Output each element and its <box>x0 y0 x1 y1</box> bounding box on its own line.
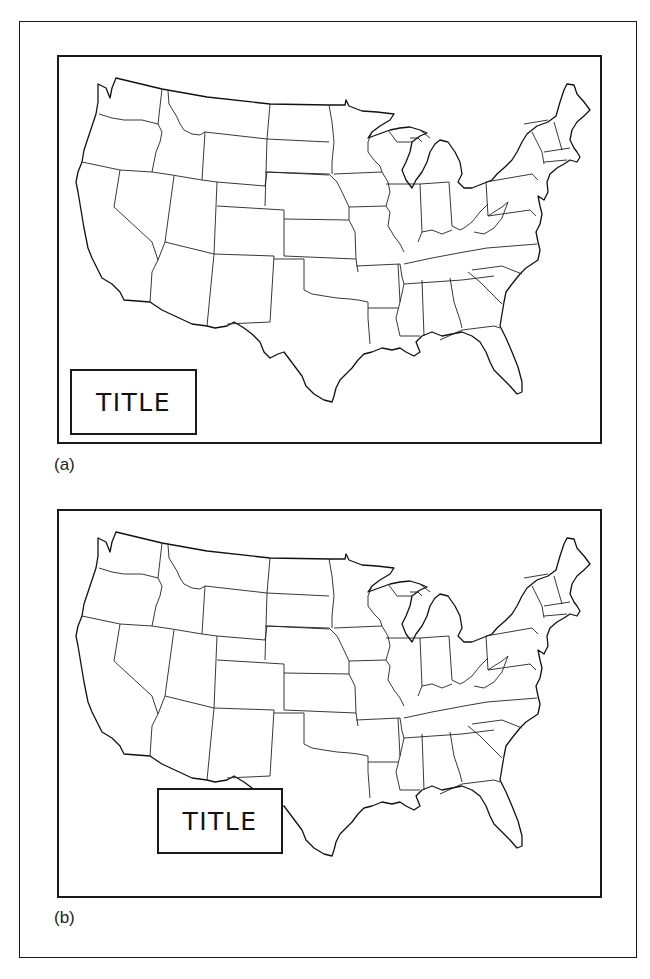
title-text-b: TITLE <box>182 807 257 836</box>
map-panel-b: TITLE <box>57 509 602 898</box>
title-box-a: TITLE <box>70 369 197 435</box>
title-text-a: TITLE <box>96 388 171 417</box>
map-panel-a: TITLE <box>57 55 602 444</box>
panel-label-b: (b) <box>54 908 75 928</box>
us-map-b <box>2 456 650 916</box>
title-box-b: TITLE <box>157 788 283 854</box>
